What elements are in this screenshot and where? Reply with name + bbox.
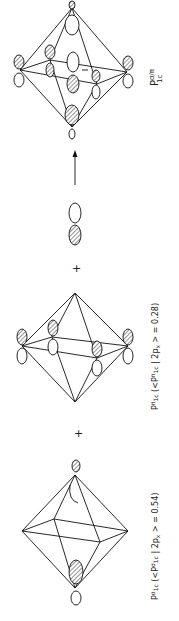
plus-operator: +: [72, 262, 81, 275]
orbital-lobe-pair: [69, 560, 83, 605]
orbital-diagram: Pσ/π1c +: [0, 0, 179, 621]
octahedron-pi: Pπ1c (<Pπ1c | 2px > = 0.28): [17, 293, 161, 410]
orbital-lobe-pair: [70, 460, 80, 503]
orbital-lobe-pair: [65, 1, 79, 35]
label-pi: Pπ1c (<Pπ1c | 2px > = 0.28): [149, 303, 161, 410]
orbital-central: [67, 52, 79, 93]
orbital-lobe-pair: [92, 70, 100, 99]
plus-operator: +: [74, 427, 83, 440]
octahedron-sigma-pi: Pσ/π1c: [14, 1, 164, 139]
octahedron-edges: [22, 293, 128, 402]
label-sigma-pi: Pσ/π1c: [148, 68, 164, 86]
p-orbital: [69, 203, 81, 245]
arrow-icon: [73, 150, 78, 185]
orbital-lobe-pair: [14, 55, 24, 87]
label-sigma: Pσ1c (<Pσ1c | 2px > = 0.54): [149, 493, 161, 600]
octahedron-sigma: Pσ1c (<Pσ1c | 2px > = 0.54): [22, 460, 161, 605]
orbital-lobe-pair: [65, 105, 79, 139]
